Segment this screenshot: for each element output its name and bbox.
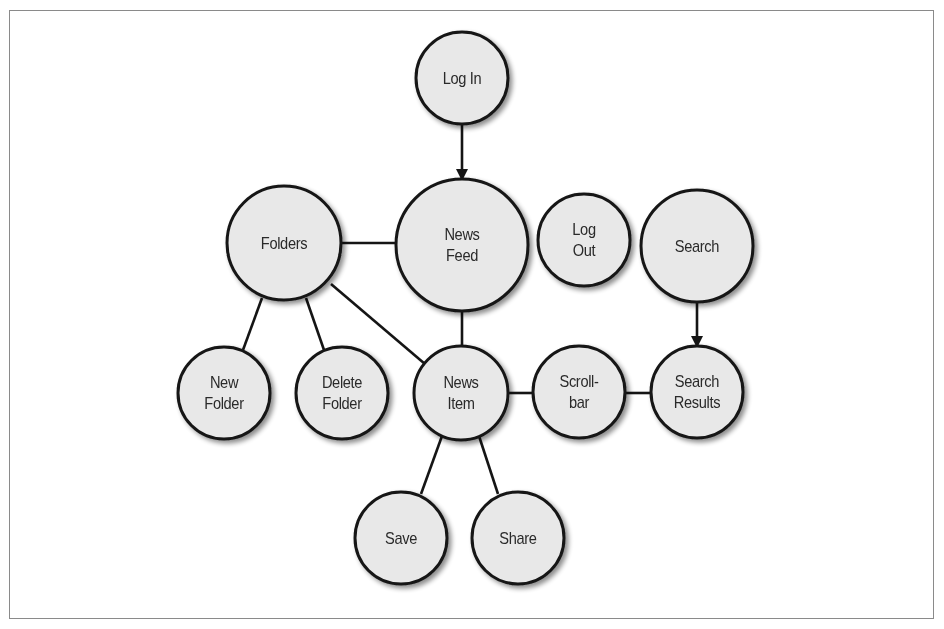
node-logout bbox=[538, 194, 630, 286]
edge-folders-to-deletefolder bbox=[306, 298, 324, 350]
node-newsfeed bbox=[396, 179, 528, 311]
node-searchresults bbox=[651, 346, 743, 438]
edge-newsitem-to-share bbox=[479, 436, 498, 494]
edge-folders-to-newfolder bbox=[243, 298, 262, 350]
node-deletefolder bbox=[296, 347, 388, 439]
node-scrollbar bbox=[533, 346, 625, 438]
node-folders bbox=[227, 186, 341, 300]
node-save bbox=[355, 492, 447, 584]
node-newsitem bbox=[414, 346, 508, 440]
edge-newsitem-to-save bbox=[421, 436, 442, 494]
node-share bbox=[472, 492, 564, 584]
node-login bbox=[416, 32, 508, 124]
site-map-diagram bbox=[0, 0, 944, 629]
node-newfolder bbox=[178, 347, 270, 439]
node-search bbox=[641, 190, 753, 302]
nodes-layer bbox=[178, 32, 753, 584]
